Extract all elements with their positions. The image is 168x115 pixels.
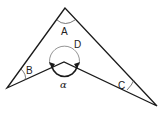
label-a: A [61,26,68,37]
label-c: C [118,80,125,91]
label-alpha: α [60,79,67,90]
label-b: B [26,65,33,76]
angle-alpha-arc [52,67,77,76]
angle-b-arc [21,69,26,80]
alpha-arrowhead-right [74,62,80,69]
quadrilateral-diagram: A B C D α [0,0,168,115]
dart-outline [7,8,157,106]
angle-c-arc [127,80,134,90]
label-d: D [74,39,81,50]
angle-a-arc [57,20,75,24]
